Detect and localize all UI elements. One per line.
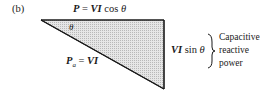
real-power-label: P = VI cos θ xyxy=(73,4,126,15)
annotation-line-2: reactive xyxy=(219,44,260,57)
p-symbol: P xyxy=(73,3,79,14)
vi-symbol: VI xyxy=(171,44,182,55)
annotation-line-3: power xyxy=(219,57,260,70)
equals: = xyxy=(79,55,85,66)
vi-symbol: VI xyxy=(87,55,98,66)
theta-symbol: θ xyxy=(121,3,126,14)
pa-subscript: a xyxy=(72,61,76,69)
theta-symbol: θ xyxy=(200,44,205,55)
cos-fn: cos xyxy=(104,3,118,14)
capacitive-reactive-power-annotation: Capacitive reactive power xyxy=(219,31,260,70)
right-brace xyxy=(208,34,215,68)
reactive-power-label: VI sin θ xyxy=(171,45,205,56)
vi-symbol: VI xyxy=(91,3,102,14)
apparent-power-label: Pa = VI xyxy=(66,56,98,69)
panel-label: (b) xyxy=(12,4,24,15)
equals: = xyxy=(82,3,88,14)
sin-fn: sin xyxy=(185,44,197,55)
annotation-line-1: Capacitive xyxy=(219,31,260,44)
angle-theta-label: θ xyxy=(69,23,73,32)
